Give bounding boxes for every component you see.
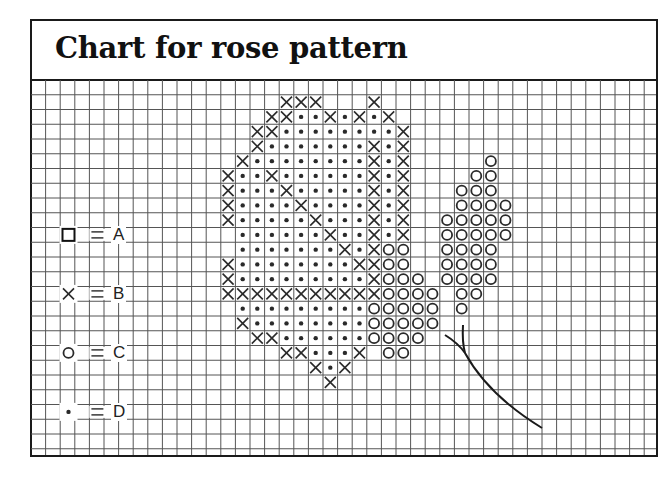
circle-stitch-icon	[413, 304, 423, 314]
dot-stitch-icon	[343, 321, 347, 325]
circle-stitch-icon	[471, 200, 481, 210]
cross-stitch-icon	[281, 288, 292, 299]
dot-stitch-icon	[255, 306, 259, 310]
dot-stitch-icon	[343, 336, 347, 340]
dot-stitch-icon	[270, 233, 274, 237]
cross-stitch-icon	[369, 215, 380, 226]
circle-stitch-icon	[413, 318, 423, 328]
dot-stitch-icon	[387, 129, 391, 133]
dot-stitch-icon	[299, 262, 303, 266]
circle-stitch-icon	[398, 304, 408, 314]
dot-stitch-icon	[241, 306, 245, 310]
circle-stitch-icon	[398, 318, 408, 328]
circle-stitch-icon	[384, 289, 394, 299]
dot-stitch-icon	[299, 115, 303, 119]
dot-stitch-icon	[314, 203, 318, 207]
cross-stitch-icon	[266, 170, 277, 181]
cross-stitch-icon	[223, 200, 234, 211]
cross-stitch-icon	[398, 141, 409, 152]
cross-stitch-icon	[223, 215, 234, 226]
dot-stitch-icon	[372, 129, 376, 133]
cross-stitch-icon	[369, 156, 380, 167]
cross-stitch-icon	[369, 97, 380, 108]
dot-stitch-icon	[357, 144, 361, 148]
dot-stitch-icon	[328, 321, 332, 325]
dot-stitch-icon	[270, 306, 274, 310]
dot-stitch-icon	[255, 218, 259, 222]
dot-stitch-icon	[328, 159, 332, 163]
dot-stitch-icon	[343, 159, 347, 163]
dot-stitch-icon	[343, 277, 347, 281]
cross-stitch-icon	[398, 156, 409, 167]
dot-stitch-icon	[299, 247, 303, 251]
circle-stitch-icon	[486, 230, 496, 240]
dot-stitch-icon	[299, 188, 303, 192]
cross-stitch-icon	[281, 347, 292, 358]
circle-icon	[64, 348, 74, 358]
cross-stitch-icon	[310, 215, 321, 226]
dot-stitch-icon	[270, 262, 274, 266]
cross-stitch-icon	[398, 200, 409, 211]
circle-stitch-icon	[471, 215, 481, 225]
cross-stitch-icon	[398, 185, 409, 196]
circle-stitch-icon	[384, 304, 394, 314]
grid-lines	[31, 80, 656, 455]
cross-stitch-icon	[398, 215, 409, 226]
cross-stitch-icon	[296, 200, 307, 211]
dot-stitch-icon	[270, 247, 274, 251]
cross-stitch-icon	[252, 141, 263, 152]
cross-stitch-icon	[369, 274, 380, 285]
dot-stitch-icon	[299, 159, 303, 163]
circle-stitch-icon	[442, 245, 452, 255]
dot-stitch-icon	[343, 262, 347, 266]
dot-icon	[66, 410, 70, 414]
circle-stitch-icon	[457, 274, 467, 284]
cross-stitch-icon	[369, 259, 380, 270]
circle-stitch-icon	[471, 186, 481, 196]
dot-stitch-icon	[299, 336, 303, 340]
circle-stitch-icon	[442, 215, 452, 225]
dot-stitch-icon	[284, 247, 288, 251]
cross-stitch-icon	[339, 288, 350, 299]
circle-stitch-icon	[398, 259, 408, 269]
dot-stitch-icon	[357, 277, 361, 281]
dot-stitch-icon	[241, 262, 245, 266]
dot-stitch-icon	[241, 188, 245, 192]
circle-stitch-icon	[398, 245, 408, 255]
dot-stitch-icon	[343, 115, 347, 119]
circle-stitch-icon	[384, 333, 394, 343]
dot-stitch-icon	[343, 233, 347, 237]
dot-stitch-icon	[314, 277, 318, 281]
dot-stitch-icon	[255, 174, 259, 178]
circle-stitch-icon	[384, 245, 394, 255]
dot-stitch-icon	[387, 233, 391, 237]
dot-stitch-icon	[328, 188, 332, 192]
circle-stitch-icon	[384, 318, 394, 328]
cross-stitch-icon	[339, 362, 350, 373]
dot-stitch-icon	[314, 336, 318, 340]
dot-stitch-icon	[357, 247, 361, 251]
cross-stitch-icon	[383, 111, 394, 122]
cross-stitch-icon	[310, 288, 321, 299]
cross-stitch-icon	[223, 274, 234, 285]
legend-label-c: C	[111, 344, 127, 362]
circle-stitch-icon	[384, 348, 394, 358]
dot-stitch-icon	[255, 277, 259, 281]
dot-stitch-icon	[357, 159, 361, 163]
dot-stitch-icon	[314, 144, 318, 148]
dot-stitch-icon	[314, 115, 318, 119]
circle-stitch-icon	[457, 289, 467, 299]
cross-stitch-icon	[281, 97, 292, 108]
dot-stitch-icon	[299, 306, 303, 310]
cross-stitch-icon	[223, 170, 234, 181]
dot-stitch-icon	[270, 277, 274, 281]
circle-stitch-icon	[471, 289, 481, 299]
dot-stitch-icon	[343, 218, 347, 222]
cross-stitch-icon	[223, 288, 234, 299]
dot-stitch-icon	[328, 277, 332, 281]
dot-stitch-icon	[357, 321, 361, 325]
dot-stitch-icon	[328, 365, 332, 369]
dot-stitch-icon	[328, 247, 332, 251]
dot-stitch-icon	[314, 351, 318, 355]
circle-stitch-icon	[501, 215, 511, 225]
